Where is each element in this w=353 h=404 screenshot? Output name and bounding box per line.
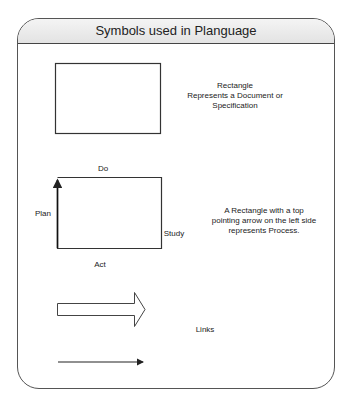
desc-line: represents Process.: [204, 226, 324, 236]
desc-line: pointing arrow on the left side: [204, 216, 324, 226]
process-description: A Rectangle with a top pointing arrow on…: [204, 206, 324, 236]
block-arrow: [58, 293, 146, 327]
document-rectangle: [56, 64, 161, 134]
desc-line: A Rectangle with a top: [204, 206, 324, 216]
desc-line: Rectangle: [180, 81, 290, 91]
label-do: Do: [93, 164, 113, 174]
process-rectangle: [58, 178, 162, 249]
desc-line: Represents a Document or: [180, 91, 290, 101]
label-act: Act: [90, 260, 110, 270]
symbol-shapes: [0, 0, 353, 404]
label-plan: Plan: [32, 209, 54, 219]
label-study: Study: [162, 229, 186, 239]
links-description: Links: [190, 325, 220, 335]
document-description: Rectangle Represents a Document or Speci…: [180, 81, 290, 111]
desc-line: Specification: [180, 101, 290, 111]
